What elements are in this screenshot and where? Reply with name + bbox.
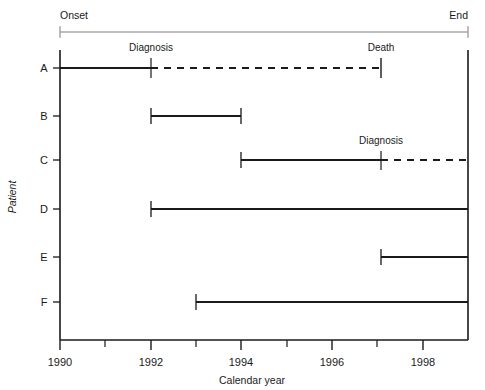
timeline-chart-svg: Onset End 1990 1992 1994 1996 1998 Calen… bbox=[0, 0, 485, 390]
y-tick-label-f: F bbox=[41, 296, 48, 308]
y-tick-label-d: D bbox=[40, 203, 48, 215]
event-label-a-death: Death bbox=[368, 42, 395, 53]
x-tick-label-1998: 1998 bbox=[411, 356, 435, 368]
y-tick-label-e: E bbox=[40, 251, 47, 263]
x-tick-label-1990: 1990 bbox=[48, 356, 72, 368]
x-axis-ticks bbox=[60, 340, 423, 350]
timeline-row-e bbox=[381, 249, 468, 265]
y-tick-label-c: C bbox=[40, 154, 48, 166]
y-axis-ticks bbox=[53, 68, 60, 302]
timeline-row-d bbox=[151, 201, 468, 217]
end-label: End bbox=[449, 9, 468, 21]
timeline-row-f bbox=[196, 294, 468, 310]
study-window-bar bbox=[60, 26, 468, 38]
timeline-row-b bbox=[151, 108, 241, 124]
x-tick-label-1996: 1996 bbox=[320, 356, 344, 368]
event-label-a-diagnosis: Diagnosis bbox=[129, 42, 173, 53]
onset-label: Onset bbox=[60, 9, 88, 21]
x-axis-title: Calendar year bbox=[219, 374, 285, 386]
patient-timeline-figure: Onset End 1990 1992 1994 1996 1998 Calen… bbox=[0, 0, 485, 390]
event-label-c-diagnosis: Diagnosis bbox=[359, 135, 403, 146]
axis-frame bbox=[60, 50, 468, 340]
timeline-row-a bbox=[60, 58, 381, 78]
y-axis-title: Patient bbox=[6, 180, 18, 214]
timeline-row-c bbox=[241, 151, 468, 170]
x-tick-label-1992: 1992 bbox=[139, 356, 163, 368]
y-tick-label-b: B bbox=[40, 110, 47, 122]
x-tick-label-1994: 1994 bbox=[229, 356, 253, 368]
y-tick-label-a: A bbox=[40, 62, 48, 74]
